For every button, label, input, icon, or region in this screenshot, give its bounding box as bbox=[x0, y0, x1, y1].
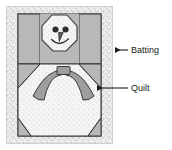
quilt-top bbox=[18, 14, 101, 136]
upper-right-gray-block bbox=[79, 14, 101, 64]
batting-label: Batting bbox=[131, 45, 159, 55]
left-eye bbox=[52, 27, 58, 33]
scarf-knot bbox=[57, 67, 70, 75]
quilt-diagram-svg bbox=[0, 0, 172, 150]
quilt-label: Quilt bbox=[131, 83, 150, 93]
right-eye bbox=[62, 27, 68, 33]
upper-left-gray-block bbox=[18, 14, 40, 64]
diagram-root: Batting Quilt bbox=[0, 0, 172, 150]
